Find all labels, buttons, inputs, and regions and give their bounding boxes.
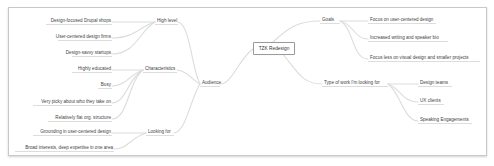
node-busy[interactable]: Busy xyxy=(101,82,111,88)
node-very-picky[interactable]: Very picky about who they take on xyxy=(41,99,111,105)
node-focus-less-visual[interactable]: Focus less on visual design and smaller … xyxy=(370,55,469,61)
node-design-focused-drupal-shops[interactable]: Design-focused Drupal shops xyxy=(51,18,111,24)
node-audience[interactable]: Audience xyxy=(202,80,221,86)
node-characteristics[interactable]: Characteristics xyxy=(145,66,175,72)
node-looking-for[interactable]: Looking for xyxy=(148,129,171,135)
node-flat-org-structure[interactable]: Relatively flat org. structure xyxy=(55,115,111,121)
node-increased-writing[interactable]: Increased writing and speaker bio xyxy=(370,35,439,41)
node-grounding-ucd[interactable]: Grounding in user-centered design xyxy=(40,129,111,135)
node-high-level[interactable]: High level xyxy=(157,18,177,24)
root-node[interactable]: TZK Redesign xyxy=(253,42,295,55)
node-type-of-work[interactable]: Type of work I'm looking for xyxy=(324,80,380,86)
node-broad-interests[interactable]: Broad interests, deep expertise in one a… xyxy=(25,145,113,151)
node-focus-ucd[interactable]: Focus on user-centered design xyxy=(370,17,433,23)
node-goals[interactable]: Goals xyxy=(322,17,334,23)
node-user-centered-design-firms[interactable]: User-centered design firms xyxy=(56,34,111,40)
node-speaking-engagements[interactable]: Speaking Engagements xyxy=(420,117,469,123)
node-design-savvy-startups[interactable]: Design-savvy startups xyxy=(66,50,111,56)
node-ux-clients[interactable]: UX clients xyxy=(420,98,441,104)
node-design-teams[interactable]: Design teams xyxy=(420,80,448,86)
node-highly-educated[interactable]: Highly educated xyxy=(78,66,111,72)
